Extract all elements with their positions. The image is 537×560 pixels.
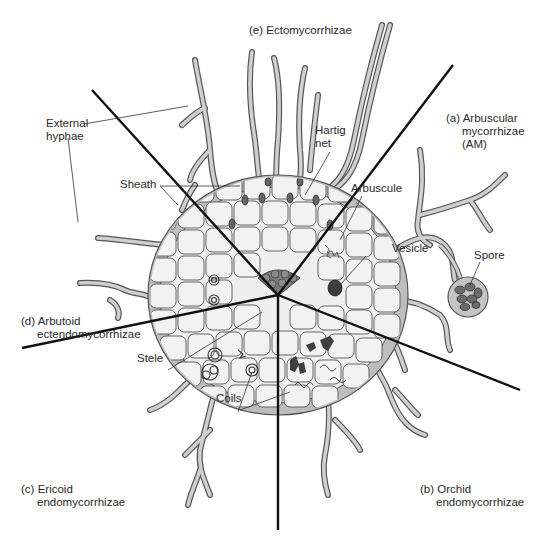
label-b-prefix: (b): [420, 483, 434, 495]
callout-hartig-line2: net: [315, 137, 346, 150]
vesicle: [328, 280, 342, 296]
label-arbutoid-ectendomycorrhizae: (d) Arbutoid ectendomycorrhizae: [21, 315, 141, 341]
callout-coils: Coils: [216, 392, 242, 405]
callout-external-hyphae: External hyphae: [46, 117, 88, 143]
label-ericoid-endomycorrhizae: (c) Ericoid endomycorrhizae: [21, 483, 125, 509]
label-a-line3: (AM): [446, 138, 525, 151]
label-d-line1: Arbutoid: [38, 315, 81, 327]
label-c-prefix: (c): [21, 483, 34, 495]
callout-sheath: Sheath: [120, 178, 156, 191]
label-d-prefix: (d): [21, 315, 35, 327]
label-a-prefix: (a): [446, 112, 460, 124]
callout-stele: Stele: [137, 352, 163, 365]
label-orchid-endomycorrhizae: (b) Orchid endomycorrhizae: [420, 483, 524, 509]
label-arbuscular-mycorrhizae: (a) Arbuscular mycorrhizae (AM): [446, 112, 525, 151]
label-c-line2: endomycorrhizae: [21, 496, 125, 509]
label-b-line1: Orchid: [437, 483, 471, 495]
label-a-line2: mycorrhizae: [446, 125, 525, 138]
callout-vesicle: Vesicle: [392, 242, 428, 255]
callout-external-hyphae-line2: hyphae: [46, 130, 88, 143]
callout-external-hyphae-line1: External: [46, 117, 88, 130]
callout-spore: Spore: [474, 249, 505, 262]
label-b-line2: endomycorrhizae: [420, 496, 524, 509]
callout-arbuscule: Arbuscule: [351, 182, 402, 195]
label-e-name: Ectomycorrhizae: [266, 24, 352, 36]
callout-hartig-net: Hartig net: [315, 124, 346, 150]
label-e-prefix: (e): [249, 24, 263, 36]
label-ectomycorrhizae: (e) Ectomycorrhizae: [249, 24, 352, 37]
callout-hartig-line1: Hartig: [315, 124, 346, 137]
label-d-line2: ectendomycorrhizae: [21, 328, 141, 341]
mycorrhizae-diagram: [0, 0, 537, 560]
label-a-line1: Arbuscular: [463, 112, 518, 124]
label-c-line1: Ericoid: [38, 483, 73, 495]
